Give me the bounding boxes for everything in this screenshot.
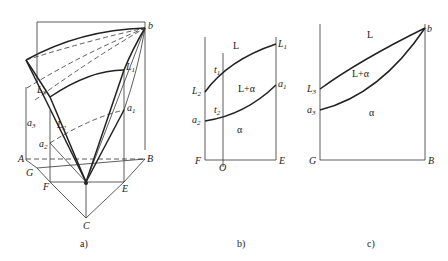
label-G: G xyxy=(26,167,33,178)
label-a2: a2 xyxy=(39,138,48,151)
region-L: L xyxy=(233,40,239,51)
label-F: F xyxy=(42,181,50,192)
region-alpha: α xyxy=(237,124,243,135)
label-E: E xyxy=(121,183,128,194)
region-alpha: α xyxy=(369,107,375,118)
label-F: F xyxy=(194,155,202,166)
label-C: C xyxy=(83,220,90,231)
label-b: b xyxy=(148,20,153,31)
label-t1: t1 xyxy=(214,64,220,77)
label-b: b xyxy=(427,23,432,34)
label-a2: a2 xyxy=(192,114,201,127)
label-A: A xyxy=(17,153,25,164)
label-O: O xyxy=(219,162,226,173)
region-L: L xyxy=(367,29,373,40)
label-L3: L3 xyxy=(36,84,47,97)
region-L-alpha: L+α xyxy=(352,68,370,79)
label-G: G xyxy=(309,155,316,166)
panel-c-section: L L+α α b L3 a3 G B c) xyxy=(306,23,434,250)
label-a3: a3 xyxy=(307,104,316,117)
caption-c: c) xyxy=(367,238,375,250)
phase-diagram-figure: b L1 L3 L2 a1 a3 a2 A B G F E C a) L L+α… xyxy=(0,0,448,261)
label-a1: a1 xyxy=(127,102,136,115)
panel-b-section: L L+α α L1 L2 a1 a2 t1 t2 F O E b) xyxy=(191,37,287,250)
label-L1: L1 xyxy=(125,61,135,74)
panel-a-prism: b L1 L3 L2 a1 a3 a2 A B G F E C a) xyxy=(17,20,153,250)
label-L3: L3 xyxy=(306,83,317,96)
label-B: B xyxy=(147,153,153,164)
caption-a: a) xyxy=(80,238,88,250)
label-a3: a3 xyxy=(27,117,36,130)
caption-b: b) xyxy=(237,238,245,250)
label-t2: t2 xyxy=(214,104,221,117)
label-a1: a1 xyxy=(278,78,287,91)
label-L1: L1 xyxy=(277,38,287,51)
label-B: B xyxy=(428,155,434,166)
label-L2: L2 xyxy=(191,85,202,98)
label-E: E xyxy=(278,155,285,166)
region-L-alpha: L+α xyxy=(238,83,256,94)
